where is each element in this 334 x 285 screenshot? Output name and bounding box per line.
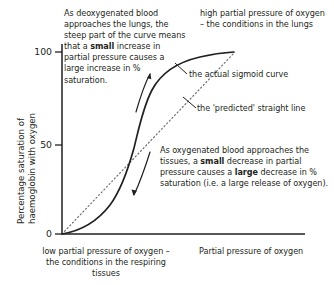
annotation-low-partial-pressure: low partial pressure of oxygen – the con…: [38, 246, 174, 279]
oxygen-dissociation-curve-figure: 100 50 0 Percentage saturation of haemog…: [0, 0, 334, 285]
y-tick-label-0: 0: [26, 229, 52, 239]
annotation-tissues-release: As oxygenated blood approaches the tissu…: [160, 145, 332, 189]
label-actual-sigmoid-curve: the actual sigmoid curve: [189, 69, 329, 80]
annotation-high-partial-pressure: high partial pressure of oxygen – the co…: [200, 8, 330, 30]
x-axis-title: Partial pressure of oxygen: [199, 246, 329, 257]
y-tick-label-100: 100: [26, 47, 52, 57]
leader-line-predicted-label: [183, 97, 196, 108]
y-axis-title-line2: haemoglobin with oxygen: [27, 113, 37, 224]
label-predicted-straight-line: the 'predicted' straight line: [197, 103, 334, 114]
annotation-lungs-steep-part: As deoxygenated blood approaches the lun…: [64, 8, 186, 86]
y-axis-title-line1: Percentage saturation of: [16, 118, 26, 224]
y-axis-title: Percentage saturation of haemoglobin wit…: [6, 76, 28, 226]
arrow-decrease-saturation: [134, 152, 150, 195]
arrow-decrease-saturation-head: [132, 190, 138, 196]
